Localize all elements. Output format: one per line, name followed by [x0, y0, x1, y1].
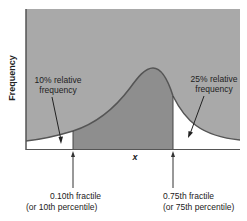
- y-axis-label: Frequency: [7, 55, 17, 101]
- left-fractile-arrowhead-icon: [71, 151, 75, 157]
- left-tail-label-line2: frequency: [39, 85, 77, 95]
- left-fractile-label-line1: 0.10th fractile: [50, 191, 101, 201]
- right-fractile-label-line1: 0.75th fractile: [163, 191, 214, 201]
- right-tail-label-line1: 25% relative: [191, 74, 238, 84]
- left-tail-label-line1: 10% relative: [35, 75, 82, 85]
- right-fractile-arrowhead-icon: [171, 151, 175, 157]
- left-fractile-label-line2: (or 10th percentile): [26, 202, 98, 212]
- frequency-diagram: Frequency x 10% relative frequency 25% r…: [0, 0, 247, 221]
- x-axis-label: x: [131, 152, 138, 162]
- right-fractile-label-line2: (or 75th percentile): [163, 202, 235, 212]
- right-tail-label-line2: frequency: [195, 84, 233, 94]
